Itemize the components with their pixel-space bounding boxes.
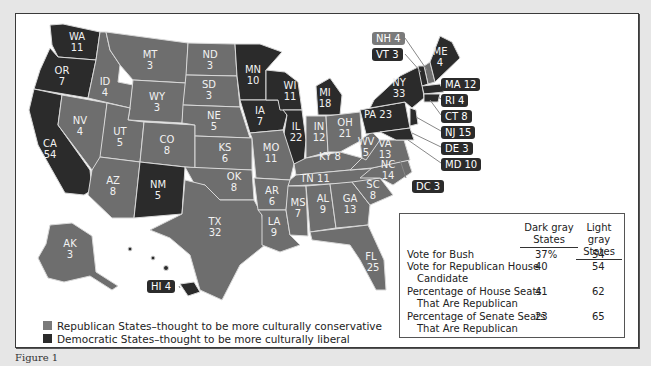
state-ct-ri [424, 94, 440, 102]
svg-text:OH: OH [337, 117, 352, 128]
svg-text:9: 9 [320, 204, 326, 215]
svg-text:6: 6 [222, 153, 228, 164]
svg-text:PA 23: PA 23 [364, 109, 392, 120]
svg-text:13: 13 [344, 204, 357, 215]
svg-text:WY: WY [149, 91, 166, 102]
table-cell-dark: 23 [535, 311, 548, 323]
svg-text:OR: OR [55, 65, 70, 76]
table-row-label: Vote for Republican House [407, 261, 539, 273]
svg-text:GA: GA [343, 193, 358, 204]
svg-text:SD: SD [202, 79, 216, 90]
svg-text:3: 3 [154, 102, 160, 113]
svg-text:IN: IN [314, 121, 324, 132]
callout-ri: RI 4 [441, 94, 468, 107]
svg-text:KY 8: KY 8 [319, 151, 341, 162]
svg-text:MO: MO [263, 142, 280, 153]
svg-text:ND: ND [202, 49, 217, 60]
svg-text:ME: ME [433, 46, 448, 57]
svg-text:VA: VA [378, 138, 391, 149]
callout-vt: VT 3 [372, 48, 403, 61]
svg-text:21: 21 [339, 128, 352, 139]
svg-text:IL: IL [292, 121, 301, 132]
table-row-label: Vote for Bush [407, 249, 474, 261]
svg-text:25: 25 [367, 262, 380, 273]
svg-text:ID: ID [100, 76, 111, 87]
svg-text:5: 5 [211, 121, 217, 132]
svg-text:WV: WV [358, 136, 375, 147]
svg-text:12: 12 [313, 132, 326, 143]
svg-text:NM: NM [150, 179, 166, 190]
svg-text:NC: NC [381, 159, 395, 170]
svg-text:OK: OK [227, 171, 242, 182]
callout-ma: MA 12 [441, 78, 480, 91]
svg-text:54: 54 [44, 149, 57, 160]
svg-text:3: 3 [67, 249, 73, 260]
svg-text:5: 5 [117, 137, 123, 148]
svg-text:KS: KS [219, 142, 232, 153]
table-cell-light: 54 [592, 261, 605, 273]
legend-item-democratic: Democratic States–thought to be more cul… [43, 332, 382, 345]
svg-text:CO: CO [160, 134, 175, 145]
table-row-label: Percentage of House Seats [407, 286, 542, 298]
svg-text:3: 3 [207, 60, 213, 71]
callout-nj: NJ 15 [441, 126, 475, 139]
svg-text:UT: UT [113, 126, 127, 137]
state-me [430, 36, 460, 82]
svg-text:WA: WA [69, 31, 85, 42]
svg-text:4: 4 [77, 126, 83, 137]
svg-text:11: 11 [71, 42, 84, 53]
table-row-label-cont: Candidate [417, 273, 468, 285]
callout-md: MD 10 [441, 158, 481, 171]
table-row-label-cont: That Are Republican [417, 298, 518, 310]
legend-swatch-democratic [43, 334, 52, 343]
svg-text:11: 11 [284, 91, 297, 102]
legend-label-republican: Republican States–thought to be more cul… [57, 320, 382, 332]
table-cell-light: 62 [592, 286, 605, 298]
svg-text:3: 3 [147, 60, 153, 71]
svg-text:14: 14 [382, 170, 395, 181]
svg-text:5: 5 [155, 190, 161, 201]
svg-text:4: 4 [437, 57, 443, 68]
svg-text:10: 10 [247, 75, 260, 86]
svg-text:9: 9 [271, 227, 277, 238]
svg-text:NY: NY [392, 77, 406, 88]
table-row-label: Percentage of Senate Seats [407, 311, 545, 323]
legend-label-democratic: Democratic States–thought to be more cul… [57, 333, 350, 345]
svg-text:MS: MS [291, 197, 306, 208]
svg-text:MI: MI [319, 87, 331, 98]
svg-text:7: 7 [59, 76, 65, 87]
svg-text:4: 4 [102, 87, 108, 98]
legend-item-republican: Republican States–thought to be more cul… [43, 319, 382, 332]
svg-text:7: 7 [295, 208, 301, 219]
svg-text:NE: NE [207, 110, 221, 121]
callout-de: DE 3 [441, 142, 473, 155]
svg-text:TN 11: TN 11 [299, 173, 330, 184]
legend: Republican States–thought to be more cul… [43, 319, 382, 345]
svg-text:CA: CA [43, 138, 57, 149]
svg-text:AK: AK [63, 238, 77, 249]
svg-text:NV: NV [73, 115, 87, 126]
svg-text:FL: FL [365, 251, 377, 262]
svg-text:7: 7 [257, 116, 263, 127]
table-header-dark: Dark gray States [520, 222, 578, 248]
svg-text:AZ: AZ [106, 175, 120, 186]
svg-text:33: 33 [393, 88, 406, 99]
svg-text:8: 8 [370, 190, 376, 201]
table-row-label-cont: That Are Republican [417, 323, 518, 335]
svg-text:TX: TX [208, 216, 222, 227]
comparison-table: Dark gray States Light gray States Vote … [399, 213, 625, 338]
svg-text:11: 11 [265, 153, 278, 164]
table-cell-dark: 37% [535, 249, 557, 261]
svg-text:22: 22 [290, 132, 303, 143]
svg-text:IA: IA [255, 105, 265, 116]
svg-text:32: 32 [209, 227, 222, 238]
svg-text:WI: WI [284, 80, 297, 91]
callout-nh: NH 4 [372, 32, 405, 45]
svg-text:SC: SC [366, 179, 379, 190]
table-cell-light: 54 [592, 249, 605, 261]
state-ak [38, 223, 118, 290]
table-cell-dark: 41 [535, 286, 548, 298]
figure-caption: Figure 1 [15, 352, 58, 363]
svg-text:5: 5 [363, 147, 369, 158]
svg-text:8: 8 [164, 145, 170, 156]
